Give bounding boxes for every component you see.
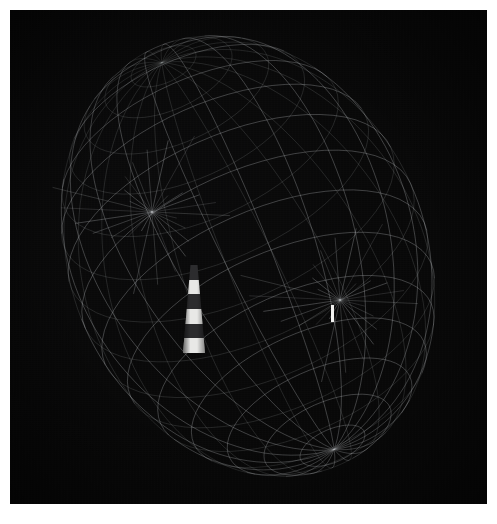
mesh-line — [102, 190, 425, 365]
mesh-line — [68, 115, 391, 282]
mesh-pinch-right — [263, 300, 340, 311]
mesh-line — [64, 63, 162, 319]
mesh-line — [63, 61, 328, 188]
mesh-line — [334, 184, 432, 450]
mesh-pinch-top-left — [75, 212, 152, 223]
mesh-line — [169, 325, 434, 452]
mesh-pinch-right — [316, 300, 340, 325]
mesh-pinch-right — [340, 224, 383, 300]
mesh-line — [163, 44, 334, 449]
mesh-pinch-top-left — [147, 150, 152, 212]
mesh-pinch-right — [340, 300, 346, 373]
mesh-pinch-right — [340, 228, 356, 300]
mesh-pinch-top-left — [111, 212, 152, 238]
mesh-pinch-top-left — [133, 162, 153, 212]
mesh-line — [90, 63, 162, 106]
mesh-line — [155, 63, 311, 474]
render-canvas — [10, 10, 487, 504]
mesh-pinch-top-left — [152, 136, 195, 212]
mesh-line — [300, 425, 365, 466]
mesh-pinch-top-left — [134, 212, 153, 294]
mesh-line — [102, 63, 247, 473]
mesh-pinch-right — [335, 238, 340, 300]
mesh-line — [334, 324, 434, 450]
mesh-line — [70, 106, 334, 451]
mesh-pinch-right — [340, 300, 374, 344]
mesh-line — [314, 68, 418, 450]
page-title: 3D wireframe scan of a lighthouse — [0, 21, 1, 22]
mesh-pinch-right — [340, 300, 363, 360]
mesh-line — [334, 449, 349, 460]
scene-markers — [331, 305, 334, 322]
mesh-line — [158, 276, 431, 436]
mesh-line — [131, 46, 196, 87]
mesh-pinch-right — [340, 300, 373, 316]
mesh-line — [162, 63, 332, 468]
mesh-line — [90, 76, 334, 449]
mesh-line — [130, 63, 286, 477]
mesh-feature-nodes — [53, 136, 418, 382]
mesh-pinch-top-left — [152, 212, 175, 272]
mesh-line — [105, 231, 428, 398]
mesh-line — [406, 174, 410, 183]
wireframe-mesh — [10, 10, 487, 504]
mesh-line — [182, 38, 341, 449]
mesh-line — [81, 319, 334, 463]
mesh-line — [191, 318, 424, 461]
mesh-line — [117, 62, 334, 450]
mesh-line — [127, 232, 431, 403]
mesh-line — [162, 62, 426, 400]
mesh-pinch-top-left — [152, 212, 158, 285]
mesh-group — [61, 36, 434, 477]
distant-marker — [331, 305, 334, 322]
screenshot-page: 3D wireframe scan of a lighthouse — [0, 0, 497, 524]
mesh-line — [78, 63, 174, 440]
